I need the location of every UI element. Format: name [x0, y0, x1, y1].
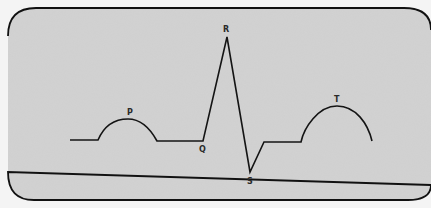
label-r: R: [223, 25, 229, 34]
label-t: T: [334, 95, 340, 104]
ecg-diagram: P Q R S T: [0, 0, 431, 208]
label-q: Q: [199, 145, 206, 154]
label-p: P: [127, 108, 133, 117]
panel-grain: [8, 8, 431, 200]
label-s: S: [247, 177, 253, 186]
